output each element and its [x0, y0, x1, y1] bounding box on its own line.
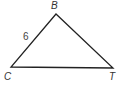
triangle-diagram: B C T 6 — [0, 0, 117, 108]
vertex-label-b: B — [51, 0, 58, 11]
vertex-label-t: T — [109, 71, 116, 82]
side-label-cb: 6 — [23, 31, 29, 42]
vertex-label-c: C — [4, 71, 12, 82]
